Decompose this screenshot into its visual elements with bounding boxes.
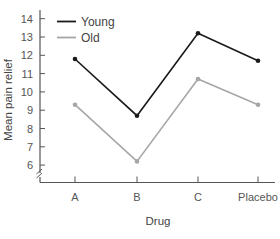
x-axis-title: Drug (146, 215, 171, 227)
x-tick-label: C (194, 191, 202, 203)
y-axis-title: Mean pain relief (2, 58, 14, 141)
x-ticks: ABCPlacebo (71, 177, 278, 204)
x-tick-label: B (133, 191, 140, 203)
y-tick-label: 9 (27, 104, 33, 116)
y-tick-label: 7 (27, 141, 33, 153)
series-line-young (75, 33, 258, 115)
data-point-old (73, 102, 78, 107)
data-point-young (196, 31, 201, 36)
y-tick-label: 6 (27, 159, 33, 171)
y-tick-label: 12 (21, 49, 33, 61)
data-point-old (256, 102, 261, 107)
y-ticks: 67891011121314 (21, 13, 45, 171)
data-point-old (135, 159, 140, 164)
legend-label-young: Young (81, 15, 115, 29)
y-tick-label: 14 (21, 13, 33, 25)
y-tick-label: 11 (22, 68, 33, 80)
x-tick-label: A (71, 191, 79, 203)
data-point-old (196, 77, 201, 82)
data-point-young (256, 59, 261, 64)
y-tick-label: 10 (21, 86, 33, 98)
data-point-young (135, 113, 140, 118)
series-line-old (75, 79, 258, 161)
legend-label-old: Old (81, 31, 100, 45)
data-point-young (73, 57, 78, 62)
legend: Young Old (57, 15, 115, 45)
line-chart: 67891011121314 ABCPlacebo Drug Mean pain… (0, 0, 280, 239)
series-lines (73, 31, 261, 164)
y-tick-label: 13 (21, 31, 33, 43)
x-tick-label: Placebo (238, 191, 278, 203)
y-tick-label: 8 (27, 123, 33, 135)
axis-break-icon (37, 169, 43, 178)
